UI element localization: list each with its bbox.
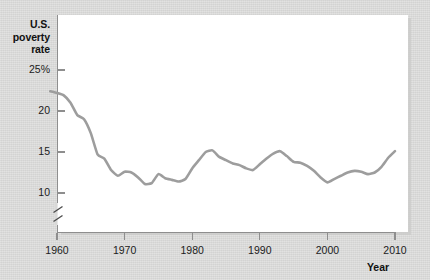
data-series-layer <box>0 0 430 280</box>
poverty-rate-line-chart: U.S. poverty rate Year 25%201510 1960197… <box>0 0 430 280</box>
poverty-rate-line <box>50 91 395 184</box>
